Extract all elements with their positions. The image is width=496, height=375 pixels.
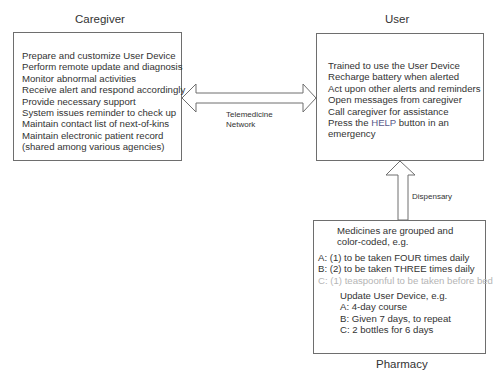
network-label: Telemedicine Network [226,110,273,130]
user-box: Trained to use the User Device Recharge … [316,33,484,161]
caregiver-item: (shared among various agencies) [22,141,181,152]
pharmacy-box: Medicines are grouped and color-coded, e… [313,220,486,354]
pharmacy-intro: Medicines are grouped and [318,225,485,236]
help-prefix: Press the [328,117,371,128]
pharmacy-update-item: A: 4-day course [318,301,485,312]
help-keyword: HELP [371,117,396,128]
caregiver-item: Maintain electronic patient record [22,130,181,141]
network-label-line2: Network [226,120,273,130]
caregiver-title: Caregiver [75,13,125,25]
pharmacy-update-item: B: Given 7 days, to repeat [318,313,485,324]
user-help-item: Press the HELP button in an [328,117,483,128]
caregiver-item: Perform remote update and diagnosis [22,61,181,72]
dispensary-label: Dispensary [412,192,452,202]
help-suffix: button in an [396,117,449,128]
pharmacy-update-item: C: 2 bottles for 6 days [318,324,485,335]
user-item: emergency [328,128,483,139]
caregiver-item: Provide necessary support [22,96,181,107]
pharmacy-intro: color-coded, e.g. [318,236,485,247]
caregiver-item: Monitor abnormal activities [22,73,181,84]
caregiver-item: Prepare and customize User Device [22,50,181,61]
pharmacy-title: Pharmacy [376,358,428,370]
user-item: Recharge battery when alerted [328,71,483,82]
user-item: Act upon other alerts and reminders [328,83,483,94]
caregiver-item: System issues reminder to check up [22,107,181,118]
user-item: Trained to use the User Device [328,60,483,71]
pharmacy-update-title: Update User Device, e.g. [318,290,485,301]
caregiver-item: Maintain contact list of next-of-kins [22,118,181,129]
pharmacy-group-c: C: (1) teaspoonful to be taken before be… [318,275,485,286]
telemedicine-double-arrow-icon [182,84,316,112]
user-item: Open messages from caregiver [328,94,483,105]
user-title: User [385,13,409,25]
network-label-line1: Telemedicine [226,110,273,120]
pharmacy-group-b: B: (2) to be taken THREE times daily [318,263,485,274]
dispensary-up-arrow-icon [386,161,415,220]
caregiver-item: Receive alert and respond accordingly [22,84,181,95]
pharmacy-group-a: A: (1) to be taken FOUR times daily [318,252,485,263]
caregiver-box: Prepare and customize User Device Perfor… [13,32,182,161]
user-item: Call caregiver for assistance [328,106,483,117]
